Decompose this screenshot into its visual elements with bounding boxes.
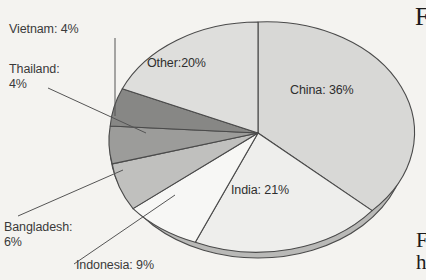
label-other: Other:20% (147, 56, 206, 71)
label-indonesia: Indonesia: 9% (76, 258, 154, 273)
label-thailand: Thailand: 4% (9, 62, 60, 93)
label-bangladesh: Bangladesh: 6% (4, 220, 72, 251)
leader-bangladesh (18, 170, 123, 216)
label-india: India: 21% (231, 183, 289, 198)
cropped-edge-text-bottom-2: h (416, 250, 426, 275)
label-vietnam: Vietnam: 4% (9, 22, 79, 37)
cropped-edge-text-top: F (415, 3, 426, 31)
label-china: China: 36% (290, 83, 354, 98)
